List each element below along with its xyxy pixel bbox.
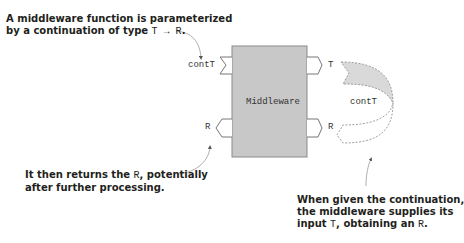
left-bottom-port-label: R: [205, 122, 210, 132]
annotation-bottom-left: It then returns the R, potentially after…: [25, 169, 208, 194]
right-bottom-port-label: R: [328, 122, 333, 132]
annotation-top-left: A middleware function is parameterized b…: [6, 13, 232, 38]
left-bottom-port-shape: [216, 119, 232, 137]
type-signature: T → R: [152, 26, 182, 37]
annotation-bottom-right-line2: the middleware supplies its: [297, 206, 464, 218]
annotation-bottom-left-line2: after further processing.: [25, 182, 208, 194]
left-top-port-label: contT: [188, 60, 215, 70]
annotation-text: input: [297, 218, 330, 229]
annotation-text: .: [424, 218, 428, 229]
right-top-port-label: T: [328, 60, 333, 70]
annotation-text: It then returns the: [25, 169, 134, 180]
annotation-text: by a continuation of type: [6, 25, 152, 36]
left-top-port-shape: [220, 57, 232, 74]
right-bottom-port-shape: [307, 119, 322, 137]
annotation-text: , obtaining an: [336, 218, 418, 229]
annotation-bottom-left-line1: It then returns the R, potentially: [25, 169, 208, 182]
arrow-bottom-right: [366, 159, 371, 186]
middleware-label: Middleware: [246, 97, 300, 107]
annotation-top-left-line2: by a continuation of type T → R.: [6, 25, 232, 38]
annotation-top-left-line1: A middleware function is parameterized: [6, 13, 232, 25]
continuation-lower-band: [337, 103, 393, 143]
right-top-port-shape: [307, 57, 322, 74]
annotation-bottom-right-line1: When given the continuation,: [297, 194, 464, 206]
annotation-bottom-right-line3: input T, obtaining an R.: [297, 218, 464, 231]
annotation-text: .: [182, 25, 186, 36]
continuation-label: contT: [350, 97, 377, 107]
annotation-bottom-right: When given the continuation, the middlew…: [297, 194, 464, 231]
annotation-text: , potentially: [140, 169, 208, 180]
